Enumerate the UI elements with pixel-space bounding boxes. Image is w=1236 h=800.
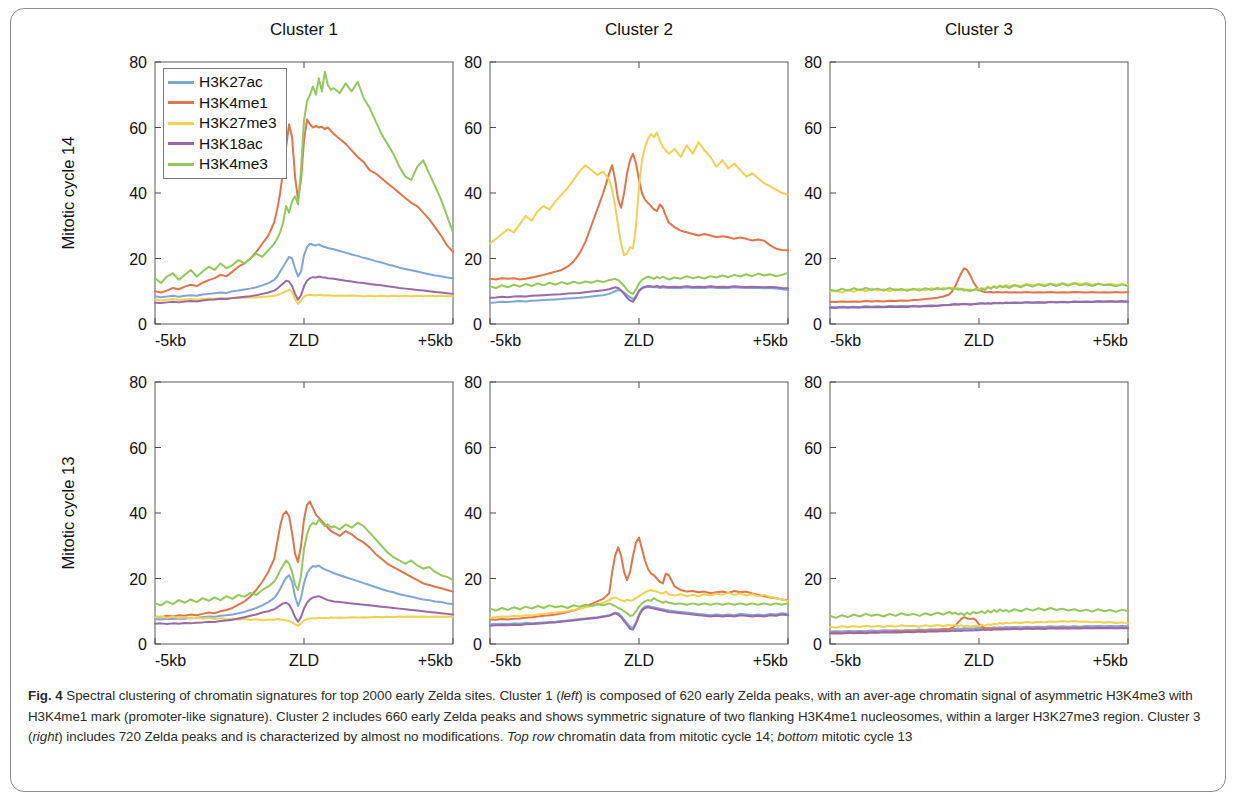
column-title-cluster-3: Cluster 3: [830, 20, 1128, 40]
caption-text: Spectral clustering of chromatin signatu…: [63, 688, 561, 703]
y-tick-label: 80: [464, 54, 482, 71]
x-tick-label: ZLD: [964, 332, 994, 349]
panel-cluster3-cycle14: 020406080-5kbZLD+5kb: [778, 48, 1146, 370]
x-tick-label: +5kb: [1093, 652, 1128, 669]
panel-cluster2-cycle13: 020406080-5kbZLD+5kb: [438, 368, 806, 690]
caption-figure-number: Fig. 4: [28, 688, 63, 703]
y-tick-label: 80: [129, 54, 147, 71]
caption-text: mitotic cycle 13: [818, 729, 912, 744]
row-label-cycle-14: Mitotic cycle 14: [59, 137, 78, 250]
legend-swatch-icon: [168, 122, 194, 125]
y-tick-label: 20: [804, 251, 822, 268]
x-tick-label: -5kb: [490, 652, 521, 669]
axes-svg: 020406080-5kbZLD+5kb: [778, 48, 1146, 370]
y-tick-label: 40: [804, 185, 822, 202]
y-tick-label: 20: [804, 571, 822, 588]
y-tick-label: 80: [129, 374, 147, 391]
legend-label: H3K4me3: [199, 154, 268, 175]
plot-frame: [830, 382, 1128, 644]
x-tick-label: +5kb: [1093, 332, 1128, 349]
caption-text: ) includes 720 Zelda peaks and is charac…: [58, 729, 507, 744]
x-tick-label: ZLD: [289, 332, 319, 349]
plot-area: Cluster 1Cluster 2Cluster 3Mitotic cycle…: [0, 0, 1236, 678]
legend-item-h3k4me1: H3K4me1: [168, 93, 280, 114]
axes-svg: 020406080-5kbZLD+5kb: [103, 48, 471, 370]
y-tick-label: 60: [129, 440, 147, 457]
y-tick-label: 20: [129, 571, 147, 588]
y-tick-label: 40: [464, 505, 482, 522]
legend-item-h3k4me3: H3K4me3: [168, 154, 280, 175]
x-tick-label: -5kb: [490, 332, 521, 349]
y-tick-label: 40: [804, 505, 822, 522]
y-tick-label: 40: [129, 185, 147, 202]
legend-swatch-icon: [168, 142, 194, 145]
caption-emphasis: bottom: [777, 729, 818, 744]
y-tick-label: 60: [804, 120, 822, 137]
axes-svg: 020406080-5kbZLD+5kb: [438, 48, 806, 370]
y-tick-label: 0: [813, 636, 822, 653]
y-tick-label: 60: [464, 440, 482, 457]
y-tick-label: 80: [804, 54, 822, 71]
y-tick-label: 80: [804, 374, 822, 391]
y-tick-label: 60: [804, 440, 822, 457]
panel-grid: Cluster 1Cluster 2Cluster 3Mitotic cycle…: [0, 0, 1236, 678]
legend-item-h3k27ac: H3K27ac: [168, 72, 280, 93]
legend-label: H3K18ac: [199, 134, 263, 155]
axes-svg: 020406080-5kbZLD+5kb: [778, 368, 1146, 690]
axes-svg: 020406080-5kbZLD+5kb: [103, 368, 471, 690]
legend-swatch-icon: [168, 101, 194, 104]
x-tick-label: ZLD: [289, 652, 319, 669]
y-tick-label: 60: [464, 120, 482, 137]
legend-swatch-icon: [168, 163, 194, 166]
legend-label: H3K27ac: [199, 72, 263, 93]
figure-caption: Fig. 4 Spectral clustering of chromatin …: [28, 686, 1218, 748]
legend-item-h3k27me3: H3K27me3: [168, 113, 280, 134]
y-tick-label: 0: [138, 316, 147, 333]
y-tick-label: 0: [473, 316, 482, 333]
plot-frame: [155, 382, 453, 644]
caption-emphasis: Top row: [507, 729, 554, 744]
x-tick-label: ZLD: [964, 652, 994, 669]
y-tick-label: 0: [813, 316, 822, 333]
y-tick-label: 20: [129, 251, 147, 268]
y-tick-label: 40: [464, 185, 482, 202]
y-tick-label: 20: [464, 251, 482, 268]
column-title-cluster-1: Cluster 1: [155, 20, 453, 40]
panel-cluster2-cycle14: 020406080-5kbZLD+5kb: [438, 48, 806, 370]
x-tick-label: -5kb: [155, 332, 186, 349]
caption-emphasis: right: [32, 729, 58, 744]
y-tick-label: 20: [464, 571, 482, 588]
x-tick-label: -5kb: [155, 652, 186, 669]
axes-svg: 020406080-5kbZLD+5kb: [438, 368, 806, 690]
y-tick-label: 0: [138, 636, 147, 653]
x-tick-label: ZLD: [624, 652, 654, 669]
caption-emphasis: left: [561, 688, 579, 703]
legend-swatch-icon: [168, 81, 194, 84]
legend-label: H3K4me1: [199, 93, 268, 114]
y-tick-label: 60: [129, 120, 147, 137]
y-tick-label: 80: [464, 374, 482, 391]
x-tick-label: -5kb: [830, 332, 861, 349]
panel-cluster3-cycle13: 020406080-5kbZLD+5kb: [778, 368, 1146, 690]
legend: H3K27acH3K4me1H3K27me3H3K18acH3K4me3: [163, 68, 287, 179]
caption-text: chromatin data from mitotic cycle 14;: [554, 729, 778, 744]
y-tick-label: 40: [129, 505, 147, 522]
legend-item-h3k18ac: H3K18ac: [168, 134, 280, 155]
x-tick-label: -5kb: [830, 652, 861, 669]
figure-root: Cluster 1Cluster 2Cluster 3Mitotic cycle…: [0, 0, 1236, 800]
row-label-cycle-13: Mitotic cycle 13: [59, 457, 78, 570]
panel-cluster1-cycle13: 020406080-5kbZLD+5kb: [103, 368, 471, 690]
panel-cluster1-cycle14: 020406080-5kbZLD+5kb: [103, 48, 471, 370]
legend-label: H3K27me3: [199, 113, 277, 134]
column-title-cluster-2: Cluster 2: [490, 20, 788, 40]
x-tick-label: ZLD: [624, 332, 654, 349]
y-tick-label: 0: [473, 636, 482, 653]
